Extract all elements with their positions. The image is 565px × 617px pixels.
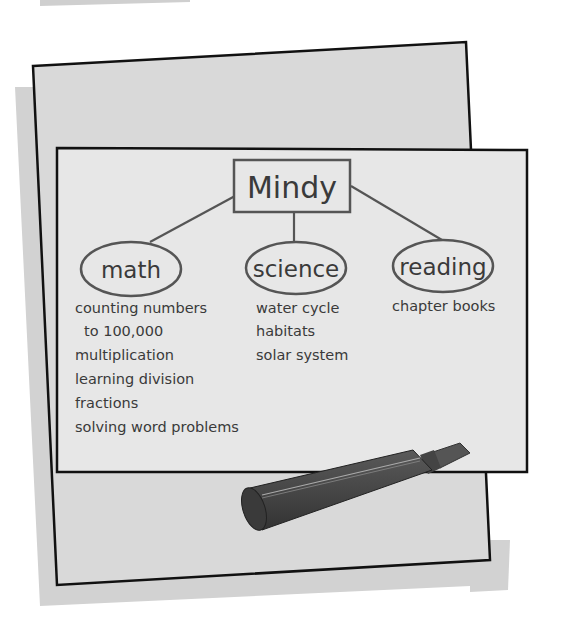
root-node-label: Mindy (247, 170, 337, 205)
list-item: learning division (75, 371, 194, 387)
list-item: fractions (75, 395, 138, 411)
list-item: solar system (256, 347, 348, 363)
list-item: chapter books (392, 298, 495, 314)
list-item: to 100,000 (84, 323, 163, 339)
branch-label-reading: reading (399, 254, 486, 280)
branch-label-math: math (101, 257, 161, 283)
illustration: Mindy math science reading counting numb… (0, 0, 565, 617)
reading-items: chapter books (392, 298, 495, 314)
top-paper-scrap (40, 0, 190, 6)
list-item: solving word problems (75, 419, 239, 435)
list-item: water cycle (256, 300, 339, 316)
branch-label-science: science (253, 256, 340, 282)
list-item: multiplication (75, 347, 174, 363)
list-item: counting numbers (75, 300, 207, 316)
list-item: habitats (256, 323, 315, 339)
